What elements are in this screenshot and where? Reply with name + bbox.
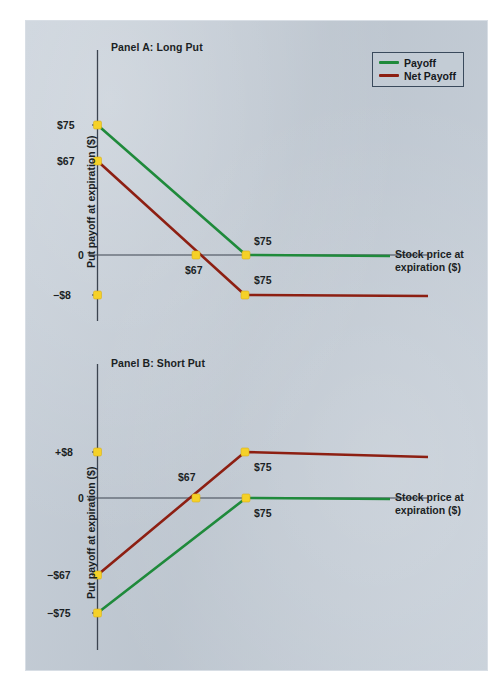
panel-b-marker-payoff-start [94, 609, 102, 617]
panel-b-label-net-kink: $75 [254, 461, 272, 473]
panel-b-label-payoff-kink: $75 [254, 507, 272, 519]
panel-b-label-breakeven: $67 [178, 471, 196, 483]
panel-b-ytick-neg75: −$75 [47, 607, 71, 619]
panel-b-title: Panel B: Short Put [111, 357, 205, 369]
figure-plate: Panel A: Long Put Put payoff at expirati… [26, 21, 487, 670]
panel-b-y-axis-label: Put payoff at expiration ($) [85, 467, 97, 599]
panel-b-ytick-0: 0 [78, 492, 84, 504]
panel-b-marker-net-kink [241, 448, 249, 456]
panel-b-ytick-neg67: −$67 [47, 569, 71, 581]
panel-b-marker-pos8 [94, 448, 102, 456]
panel-b-marker-payoff-kink [242, 494, 250, 502]
panel-b-ytick-pos8: +$8 [55, 446, 73, 458]
panel-b-short-put: Panel B: Short Put Put payoff at expirat… [26, 21, 487, 670]
panel-b-payoff-line [98, 498, 391, 613]
panel-b-x-axis-label: Stock price at expiration ($) [395, 491, 487, 517]
panel-b-marker-breakeven [192, 494, 200, 502]
